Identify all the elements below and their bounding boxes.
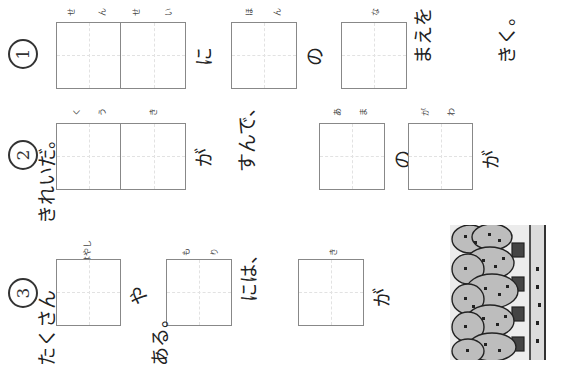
furigana: い [162, 8, 173, 16]
sentence-text: きれいだ。 [32, 130, 59, 224]
question-number-1: 1 [8, 39, 38, 69]
answer-box-hon[interactable] [231, 22, 297, 89]
sentence-text: が [476, 150, 503, 169]
furigana: な [369, 8, 380, 16]
answer-box-hayashi[interactable] [56, 259, 121, 326]
furigana: あ [331, 108, 342, 116]
furigana: せ [65, 8, 76, 16]
furigana: ほ [243, 8, 254, 16]
trees-icon [450, 225, 544, 360]
furigana: ん [96, 8, 107, 16]
answer-box-sensei[interactable] [56, 22, 186, 89]
sentence-text: が [367, 288, 394, 307]
forest-trees-illustration [450, 225, 546, 360]
sentence-text: まえを [408, 7, 435, 64]
furigana: ん [271, 8, 282, 16]
sentence-text: ある。 [145, 309, 172, 366]
furigana: ま [357, 108, 368, 116]
furigana: も [180, 248, 191, 256]
sentence-text: や [124, 286, 151, 305]
furigana: う [96, 108, 107, 116]
sentence-text: の [300, 47, 327, 66]
furigana: き [147, 108, 158, 116]
answer-box-na[interactable] [341, 22, 407, 89]
furigana: き [327, 248, 338, 256]
sentence-text: たくさん [32, 290, 59, 366]
answer-box-mori[interactable] [166, 259, 232, 326]
sentence-text: すんで、 [232, 98, 259, 172]
furigana: が [419, 108, 430, 116]
sentence-text: には、 [234, 245, 261, 302]
furigana: わ [445, 108, 456, 116]
answer-box-gawa[interactable] [408, 123, 473, 190]
answer-box-ama[interactable] [319, 123, 385, 190]
furigana: り [208, 248, 219, 256]
sentence-text: が [189, 148, 216, 167]
furigana: く [70, 108, 81, 116]
sentence-text: きく。 [492, 7, 519, 64]
sentence-text: に [189, 47, 216, 66]
answer-box-kuuki[interactable] [56, 123, 186, 190]
furigana: せ [130, 8, 141, 16]
answer-box-ki[interactable] [298, 259, 364, 326]
